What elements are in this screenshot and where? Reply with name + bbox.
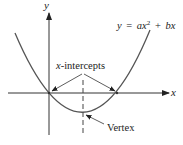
x-axis-label: x: [170, 86, 176, 98]
x-intercepts-text: -intercepts: [61, 60, 105, 71]
vertex-arrow: [86, 115, 104, 124]
origin-intercept-point: [48, 92, 50, 94]
eq-equals: =: [126, 20, 132, 31]
parabola-diagram: y x y = ax2 + bx x-intercepts Vertex: [0, 0, 183, 145]
vertex-label: Vertex: [107, 122, 135, 133]
equation-label: y = ax2 + bx: [116, 16, 176, 31]
second-intercept-point: [116, 92, 118, 94]
intercept-arrow-right: [84, 74, 115, 91]
x-intercepts-label: x-intercepts: [55, 60, 105, 71]
y-axis-label: y: [43, 0, 49, 11]
eq-lhs: y: [116, 20, 122, 31]
intercept-arrow-left: [52, 74, 82, 91]
eq-plus: +: [155, 20, 161, 31]
eq-exponent: 2: [147, 19, 151, 27]
eq-x2: x: [170, 20, 176, 31]
